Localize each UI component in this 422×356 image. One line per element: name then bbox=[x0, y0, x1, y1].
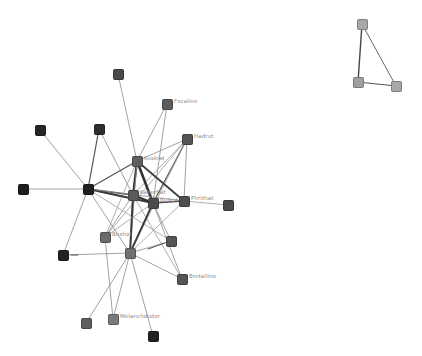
graph-node[interactable] bbox=[391, 81, 402, 92]
graph-node[interactable] bbox=[35, 125, 46, 136]
graph-node[interactable] bbox=[108, 314, 119, 325]
node-label: Hadrut bbox=[194, 133, 214, 139]
graph-edge bbox=[130, 253, 153, 336]
graph-node[interactable] bbox=[148, 198, 159, 209]
graph-edge bbox=[184, 139, 187, 201]
graph-edge bbox=[358, 24, 362, 82]
node-label: Kuskiat bbox=[144, 155, 165, 161]
graph-node[interactable] bbox=[125, 248, 136, 259]
graph-edge bbox=[99, 129, 133, 195]
graph-node[interactable] bbox=[94, 124, 105, 135]
node-label: Phrithat bbox=[191, 195, 214, 201]
node-label: Bulkot bbox=[160, 197, 178, 203]
graph-node[interactable] bbox=[177, 274, 188, 285]
graph-node[interactable] bbox=[58, 250, 69, 261]
graph-node[interactable] bbox=[182, 134, 193, 145]
graph-node[interactable] bbox=[132, 156, 143, 167]
graph-edge bbox=[105, 237, 113, 319]
node-label: Melanchdistor bbox=[120, 313, 160, 319]
graph-node[interactable] bbox=[83, 184, 94, 195]
graph-node[interactable] bbox=[162, 99, 173, 110]
graph-edge bbox=[88, 161, 137, 189]
graph-node[interactable] bbox=[148, 331, 159, 342]
graph-edge bbox=[362, 24, 396, 86]
graph-edge bbox=[88, 129, 99, 189]
graph-node[interactable] bbox=[81, 318, 92, 329]
node-label: Fxcaline bbox=[174, 98, 197, 104]
graph-node[interactable] bbox=[166, 236, 177, 247]
graph-edge bbox=[133, 139, 187, 195]
graph-node[interactable] bbox=[128, 190, 139, 201]
graph-edge bbox=[184, 201, 228, 205]
graph-edges bbox=[0, 0, 422, 356]
graph-edge bbox=[118, 74, 137, 161]
graph-edge bbox=[88, 189, 130, 253]
graph-node[interactable] bbox=[18, 184, 29, 195]
graph-node[interactable] bbox=[179, 196, 190, 207]
graph-node[interactable] bbox=[223, 200, 234, 211]
node-label: Bretalline bbox=[189, 273, 216, 279]
graph-edge bbox=[40, 130, 88, 189]
node-label: Bushot bbox=[112, 231, 132, 237]
graph-edge bbox=[63, 189, 88, 255]
graph-edge bbox=[137, 104, 167, 161]
graph-edge bbox=[113, 253, 130, 319]
node-label: Kaberbat bbox=[140, 189, 166, 195]
graph-node[interactable] bbox=[113, 69, 124, 80]
graph-node[interactable] bbox=[100, 232, 111, 243]
graph-node[interactable] bbox=[357, 19, 368, 30]
network-graph[interactable]: FxcalineHadrutKuskiatKaberbatBulkotPhrit… bbox=[0, 0, 422, 356]
graph-node[interactable] bbox=[353, 77, 364, 88]
